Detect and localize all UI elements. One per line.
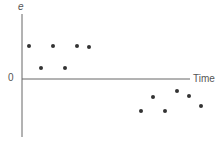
data-point xyxy=(187,94,191,98)
data-point xyxy=(27,44,31,48)
data-point xyxy=(151,95,155,99)
data-point xyxy=(51,44,55,48)
scatter-plot xyxy=(0,0,223,144)
y-axis-label: e xyxy=(18,1,24,12)
data-point xyxy=(87,45,91,49)
data-point xyxy=(39,66,43,70)
data-point xyxy=(75,44,79,48)
data-point xyxy=(63,66,67,70)
x-axis-label: Time xyxy=(193,73,215,84)
zero-tick-label: 0 xyxy=(8,72,14,83)
data-point xyxy=(199,104,203,108)
data-point xyxy=(175,89,179,93)
data-point xyxy=(163,109,167,113)
data-point xyxy=(139,109,143,113)
